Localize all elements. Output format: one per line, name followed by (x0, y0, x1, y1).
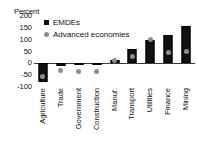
circle-marker-icon[interactable] (76, 69, 81, 74)
x-axis-tick-label: Utilities (146, 88, 154, 112)
x-axis-tick-label: Trade (57, 88, 65, 107)
x-axis-tick-label: Mining (182, 88, 190, 110)
chart-container: Percent 200150100500-50-100 EMDEs Advanc… (0, 0, 197, 159)
x-axis-tick: Transport (123, 88, 141, 158)
circle-marker-icon[interactable] (148, 37, 153, 42)
x-axis-tick: Finance (159, 88, 177, 158)
x-axis-tick: Trade (52, 88, 70, 158)
circle-marker-icon[interactable] (184, 49, 189, 54)
circle-marker-icon[interactable] (130, 54, 135, 59)
y-axis-tick-label: 50 (24, 48, 32, 56)
x-axis-tick: Utilities (141, 88, 159, 158)
marker-slot (141, 16, 159, 87)
x-axis-tick: Government (70, 88, 88, 158)
chart-legend: EMDEs Advanced economies (44, 18, 130, 39)
x-axis-tick: Mining (177, 88, 195, 158)
circle-marker-icon[interactable] (40, 74, 45, 79)
marker-slot (159, 16, 177, 87)
legend-item-label: Advanced economies (53, 30, 130, 39)
y-axis-tick-label: 0 (28, 59, 32, 67)
square-marker-icon (44, 20, 49, 25)
legend-item-label: EMDEs (53, 18, 80, 27)
circle-marker-icon (44, 32, 49, 37)
legend-item-emdes[interactable]: EMDEs (44, 18, 130, 27)
y-axis-tick-label: -50 (21, 71, 32, 79)
circle-marker-icon[interactable] (112, 58, 117, 63)
y-axis-tick-label: 100 (19, 36, 32, 44)
x-axis-tick: Construction (88, 88, 106, 158)
x-axis-tick-label: Construction (93, 88, 101, 130)
y-axis-tick-label: 150 (19, 24, 32, 32)
x-axis-tick-label: Transport (128, 88, 136, 120)
x-axis-tick-label: Agriculture (39, 88, 47, 124)
x-axis-tick-label: Manuf. (111, 88, 119, 111)
circle-marker-icon[interactable] (58, 68, 63, 73)
y-axis-tick-label: 200 (19, 12, 32, 20)
x-axis: AgricultureTradeGovernmentConstructionMa… (34, 88, 195, 158)
y-axis: 200150100500-50-100 (0, 16, 34, 87)
x-axis-tick: Agriculture (34, 88, 52, 158)
circle-marker-icon[interactable] (94, 69, 99, 74)
x-axis-tick-label: Government (75, 88, 83, 129)
circle-marker-icon[interactable] (166, 50, 171, 55)
legend-item-advanced-economies[interactable]: Advanced economies (44, 30, 130, 39)
marker-slot (177, 16, 195, 87)
x-axis-tick-label: Finance (164, 88, 172, 115)
y-axis-tick-label: -100 (17, 83, 32, 91)
x-axis-tick: Manuf. (106, 88, 124, 158)
